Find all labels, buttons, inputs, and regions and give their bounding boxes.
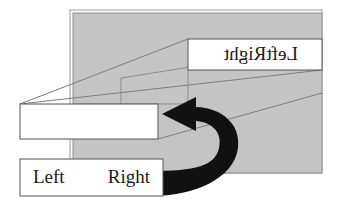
middle-box-background (20, 104, 158, 139)
slab-face (73, 13, 322, 173)
top-mirrored-label-box: Left Right (188, 39, 322, 70)
top-box-label-right: Right (223, 43, 266, 64)
bottom-box-label-left: Left (33, 166, 65, 187)
diagram-canvas: Left Right Left Right (0, 0, 355, 206)
bottom-label-box: Left Right (20, 159, 163, 196)
flip-orientation-diagram: Left Right Left Right (0, 0, 355, 206)
bottom-box-label-right: Right (108, 166, 151, 187)
middle-empty-box (20, 104, 158, 139)
top-box-label-left: Left (266, 43, 298, 64)
